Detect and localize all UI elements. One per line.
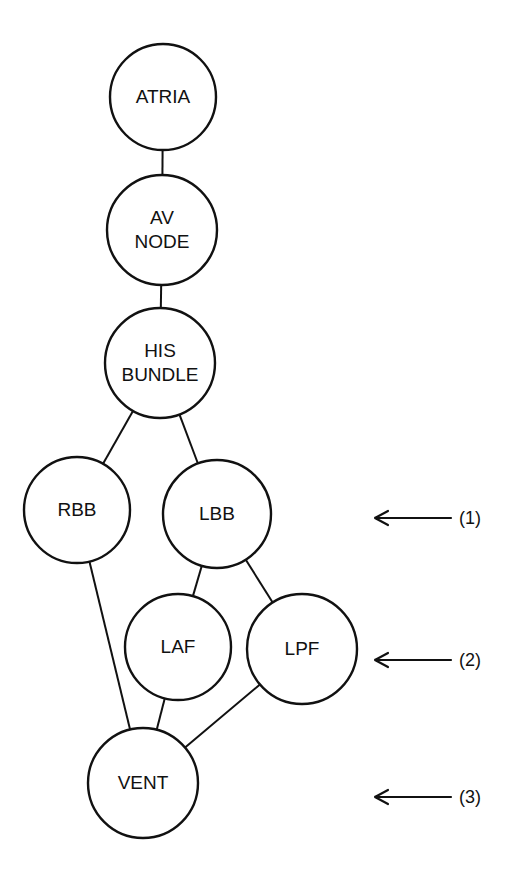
node-label-his: HISBUNDLE — [121, 339, 198, 387]
left-arrow-icon — [375, 790, 451, 804]
node-label-vent: VENT — [118, 771, 169, 795]
edge-lbb-lpf — [246, 560, 273, 603]
node-label-rbb: RBB — [57, 498, 96, 522]
node-label-line: BUNDLE — [121, 363, 198, 387]
node-label-line: NODE — [135, 230, 190, 254]
node-label-line: LBB — [199, 502, 235, 526]
node-label-line: ATRIA — [136, 85, 191, 109]
node-label-line: RBB — [57, 498, 96, 522]
node-label-laf: LAF — [161, 635, 196, 659]
node-label-line: LPF — [285, 637, 320, 661]
left-arrow-icon — [375, 653, 451, 667]
level-marker-3: (3) — [459, 787, 481, 808]
node-label-line: LAF — [161, 635, 196, 659]
edge-his-rbb — [103, 411, 133, 464]
node-label-line: AV — [135, 206, 190, 230]
edge-his-lbb — [179, 414, 198, 463]
level-marker-1: (1) — [459, 508, 481, 529]
conduction-diagram — [0, 0, 511, 872]
left-arrow-icon — [375, 511, 451, 525]
node-label-lpf: LPF — [285, 637, 320, 661]
edge-laf-vent — [157, 698, 165, 729]
node-label-line: VENT — [118, 771, 169, 795]
level-marker-2: (2) — [459, 650, 481, 671]
node-label-atria: ATRIA — [136, 85, 191, 109]
node-label-avnode: AVNODE — [135, 206, 190, 254]
node-label-line: HIS — [121, 339, 198, 363]
level-arrows — [375, 511, 451, 804]
edge-lbb-laf — [193, 566, 202, 596]
node-label-lbb: LBB — [199, 502, 235, 526]
